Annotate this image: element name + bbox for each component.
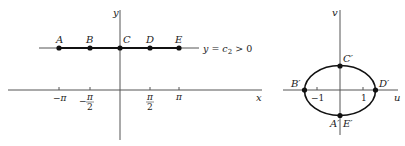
- line-equation-lhs: y = c: [202, 43, 228, 54]
- right-plot: v u −1 1 B′ C′ D′ A′ E′: [283, 7, 400, 135]
- point-label-A: A: [55, 34, 63, 45]
- point-A: [56, 45, 61, 50]
- tick-label-half-pi-den: 2: [147, 102, 153, 112]
- point-label-E-prime: E′: [342, 118, 353, 129]
- tick-label-pi: π: [175, 92, 183, 102]
- tick-label-half-pi-num: π: [146, 92, 154, 102]
- point-label-C: C: [123, 34, 131, 45]
- line-equation-rhs: > 0: [232, 43, 252, 54]
- point-D: [147, 45, 152, 50]
- tick-label-one: 1: [361, 93, 367, 103]
- figure: y x −π − π 2 π 2 π A B: [0, 0, 405, 146]
- y-axis-label: y: [112, 7, 119, 18]
- point-label-D: D: [145, 34, 154, 45]
- point-B: [87, 45, 92, 50]
- line-equation-label: y = c2 > 0: [202, 43, 252, 56]
- point-label-D-prime: D′: [378, 78, 390, 89]
- point-label-C-prime: C′: [343, 53, 354, 64]
- tick-label-neg-half-pi-den: 2: [87, 102, 93, 112]
- tick-label-neg-pi: −π: [53, 93, 68, 103]
- point-B-prime: [302, 87, 307, 92]
- tick-label-neg-one: −1: [311, 93, 324, 103]
- tick-label-neg-half-pi-sign: −: [79, 96, 87, 106]
- point-label-B: B: [85, 34, 93, 45]
- tick-label-neg-half-pi-num: π: [86, 92, 94, 102]
- point-label-E: E: [174, 34, 183, 45]
- point-label-B-prime: B′: [290, 78, 301, 89]
- x-axis-label: x: [256, 92, 262, 103]
- point-C-prime: [337, 63, 342, 68]
- u-axis-label: u: [394, 92, 400, 103]
- point-label-A-prime: A′: [329, 118, 340, 129]
- figure-svg: y x −π − π 2 π 2 π A B: [0, 0, 405, 146]
- v-axis-label: v: [332, 7, 338, 18]
- point-C: [117, 45, 122, 50]
- left-plot: y x −π − π 2 π 2 π A B: [8, 7, 262, 140]
- point-D-prime: [373, 87, 378, 92]
- point-E: [176, 45, 181, 50]
